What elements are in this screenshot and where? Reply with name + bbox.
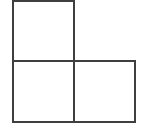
bottom-right-square bbox=[74, 61, 135, 122]
figure-canvas bbox=[0, 0, 143, 128]
l-shape-svg bbox=[0, 0, 143, 128]
top-left-square bbox=[13, 1, 74, 61]
bottom-left-square bbox=[13, 61, 74, 122]
